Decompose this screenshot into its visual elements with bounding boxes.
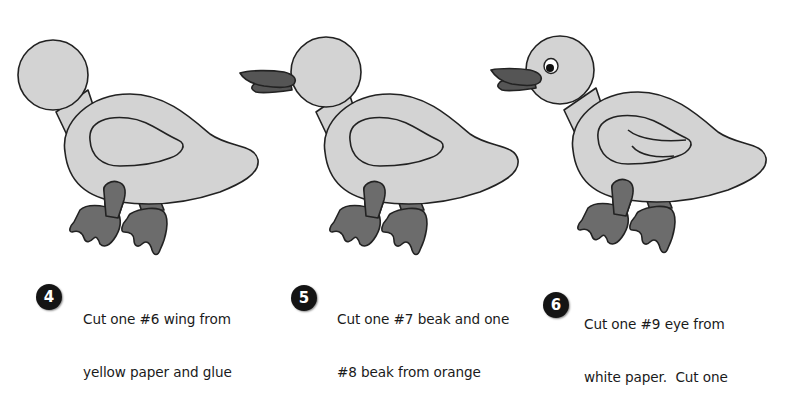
step-text-line: Cut one #9 eye from bbox=[584, 316, 732, 334]
step-text-line: #8 beak from orange bbox=[337, 364, 509, 382]
step-number-badge: 5 bbox=[291, 285, 317, 311]
step-text-line: Cut one #6 wing from bbox=[83, 311, 232, 329]
duck-head bbox=[526, 36, 594, 104]
duck-illustrations bbox=[0, 0, 785, 270]
duck-illustration-step-6 bbox=[491, 36, 766, 253]
duck-head bbox=[291, 37, 361, 107]
step-number-badge: 6 bbox=[543, 292, 569, 318]
step-text-line: white paper. Cut one bbox=[584, 369, 732, 387]
duck-illustration-step-4 bbox=[18, 40, 258, 255]
step-text: Cut one #7 beak and one #8 beak from ora… bbox=[337, 276, 509, 395]
duck-illustration-step-5 bbox=[240, 37, 518, 255]
step-text: Cut one #6 wing from yellow paper and gl… bbox=[83, 276, 232, 395]
duck-pupil bbox=[546, 64, 554, 72]
step-text-line: Cut one #7 beak and one bbox=[337, 311, 509, 329]
duck-beak-upper bbox=[240, 71, 295, 88]
duck-head bbox=[18, 40, 88, 110]
step-text: Cut one #9 eye from white paper. Cut one… bbox=[584, 281, 732, 395]
step-text-line: yellow paper and glue bbox=[83, 364, 232, 382]
step-number-badge: 4 bbox=[36, 284, 62, 310]
